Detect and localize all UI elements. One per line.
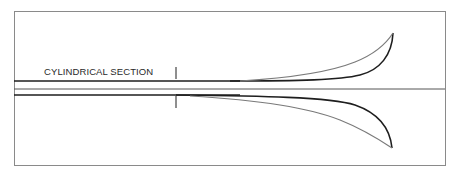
lower-flare-outer-curve	[190, 96, 392, 148]
cylindrical-section-label: CYLINDRICAL SECTION	[44, 66, 153, 77]
lower-flare-inner-curve	[176, 95, 392, 148]
upper-flare-outer-curve	[240, 33, 393, 81]
horn-profile-drawing	[0, 0, 460, 176]
diagram-canvas: CYLINDRICAL SECTION	[0, 0, 460, 176]
